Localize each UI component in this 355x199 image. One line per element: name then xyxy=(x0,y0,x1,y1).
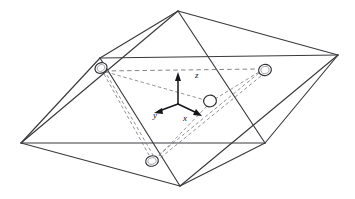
edge-atom-ur-to-lower-b xyxy=(159,76,261,159)
edge-bottom-to-right xyxy=(180,55,338,186)
x-axis-label: x xyxy=(183,113,187,123)
edge-girdle-left xyxy=(21,58,100,143)
x-axis-line xyxy=(178,104,197,113)
edge-girdle-upper xyxy=(100,55,338,58)
z-axis-label: z xyxy=(195,70,199,80)
polyhedron-diagram xyxy=(0,0,355,199)
edge-bottom-to-midright xyxy=(180,143,265,186)
edge-top-to-left xyxy=(21,11,178,143)
edge-girdle-right xyxy=(265,55,338,143)
edge-top-to-midleft xyxy=(100,11,178,58)
atom-center xyxy=(203,94,217,107)
atom-lower xyxy=(145,154,160,167)
edge-atom-ur-to-lower xyxy=(156,73,259,157)
outer-polyhedron-edges xyxy=(21,11,338,186)
figure-container: z x y xyxy=(0,0,355,199)
edge-center-to-upper-right xyxy=(215,72,259,99)
edge-hidden-upper-girdle xyxy=(104,69,258,71)
atom-upper-right xyxy=(258,63,273,77)
edge-bottom-to-midleft xyxy=(100,58,180,186)
y-axis-label: y xyxy=(153,110,157,120)
edge-atom-ul-to-center xyxy=(106,72,205,100)
z-axis-arrowhead xyxy=(175,72,181,81)
